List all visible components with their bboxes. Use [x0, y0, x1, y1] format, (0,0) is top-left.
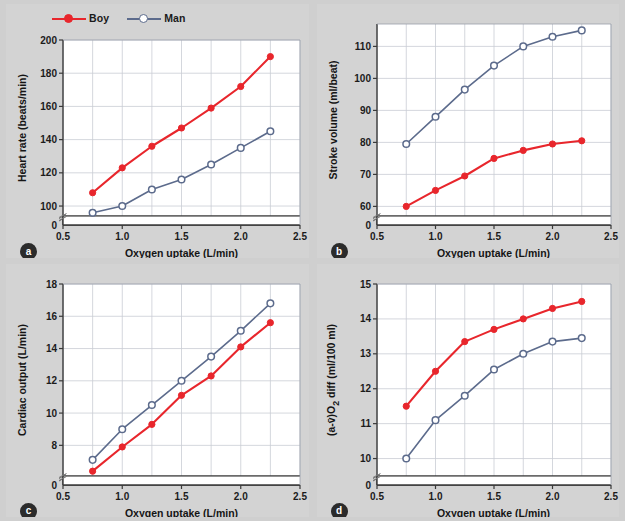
x-axis-label-a: Oxygen uptake (L/min): [63, 247, 300, 258]
x-axis-label-b: Oxygen uptake (L/min): [377, 247, 611, 258]
legend: Boy Man: [52, 12, 185, 24]
svg-text:180: 180: [40, 68, 57, 79]
legend-swatch-man: [127, 13, 161, 24]
svg-text:13: 13: [359, 348, 371, 359]
svg-text:110: 110: [354, 41, 371, 52]
svg-text:200: 200: [40, 35, 57, 46]
y-axis-label-b: Stroke volume (ml/beat): [327, 60, 339, 179]
svg-text:100: 100: [40, 201, 57, 212]
legend-swatch-boy: [52, 13, 86, 24]
svg-text:2.5: 2.5: [604, 491, 618, 502]
svg-text:1.5: 1.5: [175, 491, 189, 502]
svg-text:0: 0: [51, 220, 57, 231]
panel-d: 10111213141500.51.01.52.02.5 (a-v̄)O2 di…: [317, 264, 620, 518]
svg-text:140: 140: [40, 134, 57, 145]
svg-text:1.5: 1.5: [487, 491, 501, 502]
svg-text:2.0: 2.0: [234, 231, 248, 242]
svg-text:12: 12: [46, 375, 58, 386]
svg-text:0.5: 0.5: [370, 231, 384, 242]
legend-label-boy: Boy: [89, 12, 109, 24]
svg-text:8: 8: [51, 439, 57, 450]
svg-text:0: 0: [365, 479, 371, 490]
svg-text:10: 10: [46, 407, 58, 418]
svg-text:10: 10: [359, 453, 371, 464]
panel-a: Boy Man 10012014016018020000.51.01.52.02…: [6, 4, 309, 258]
svg-text:15: 15: [359, 278, 371, 289]
svg-text:14: 14: [359, 313, 371, 324]
x-axis-label-c: Oxygen uptake (L/min): [63, 507, 300, 518]
svg-text:120: 120: [40, 167, 57, 178]
svg-text:11: 11: [360, 418, 371, 429]
legend-item-man: Man: [127, 12, 185, 24]
legend-label-man: Man: [164, 12, 185, 24]
svg-text:14: 14: [46, 343, 58, 354]
svg-text:0.5: 0.5: [56, 231, 70, 242]
panel-c: 8101214161800.51.01.52.02.5 Cardiac outp…: [6, 264, 309, 518]
svg-text:1.0: 1.0: [428, 491, 442, 502]
svg-text:2.5: 2.5: [293, 491, 307, 502]
svg-text:1.0: 1.0: [115, 491, 129, 502]
y-axis-label-a: Heart rate (beats/min): [16, 74, 28, 182]
svg-text:60: 60: [359, 201, 371, 212]
chart-a: 10012014016018020000.51.01.52.02.5: [8, 6, 309, 258]
panel-badge-c: c: [20, 503, 37, 518]
figure-panel-grid: Boy Man 10012014016018020000.51.01.52.02…: [0, 0, 625, 521]
svg-text:18: 18: [46, 278, 58, 289]
svg-text:2.5: 2.5: [604, 231, 618, 242]
svg-text:80: 80: [359, 137, 371, 148]
panel-b: 6070809010011000.51.01.52.02.5 Stroke vo…: [317, 4, 620, 258]
svg-text:1.5: 1.5: [175, 231, 189, 242]
chart-c: 8101214161800.51.01.52.02.5: [8, 266, 309, 518]
svg-text:160: 160: [40, 101, 57, 112]
svg-text:2.5: 2.5: [293, 231, 307, 242]
y-axis-label-d: (a-v̄)O2 diff (ml/100 ml): [325, 323, 340, 435]
panel-badge-d: d: [331, 503, 348, 518]
panel-badge-a: a: [20, 243, 37, 258]
svg-text:1.5: 1.5: [487, 231, 501, 242]
svg-text:0: 0: [51, 479, 57, 490]
svg-text:12: 12: [359, 383, 371, 394]
y-axis-label-c: Cardiac output (L/min): [16, 324, 28, 436]
chart-b: 6070809010011000.51.01.52.02.5: [319, 6, 620, 258]
svg-text:0.5: 0.5: [56, 491, 70, 502]
svg-text:1.0: 1.0: [428, 231, 442, 242]
legend-item-boy: Boy: [52, 12, 109, 24]
svg-text:2.0: 2.0: [545, 231, 559, 242]
x-axis-label-d: Oxygen uptake (L/min): [377, 507, 611, 518]
svg-text:2.0: 2.0: [545, 491, 559, 502]
svg-text:2.0: 2.0: [234, 491, 248, 502]
svg-text:16: 16: [46, 310, 58, 321]
svg-text:0.5: 0.5: [370, 491, 384, 502]
chart-d: 10111213141500.51.01.52.02.5: [319, 266, 620, 518]
svg-text:1.0: 1.0: [115, 231, 129, 242]
svg-text:70: 70: [359, 169, 371, 180]
svg-text:100: 100: [354, 73, 371, 84]
svg-text:0: 0: [365, 220, 371, 231]
panel-badge-b: b: [331, 243, 348, 258]
svg-text:90: 90: [359, 105, 371, 116]
